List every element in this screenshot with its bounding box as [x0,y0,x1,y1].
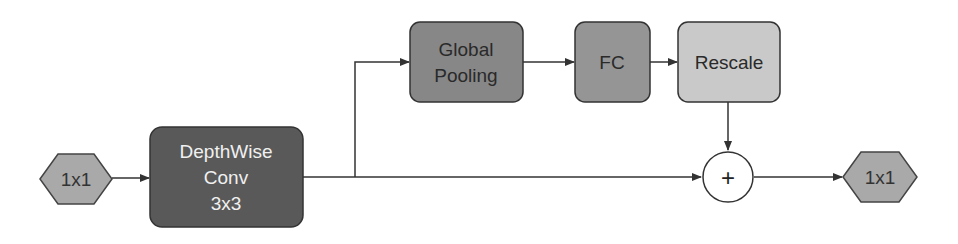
depthwise-conv-label-line3: 3x3 [211,193,242,214]
rescale-node: Rescale [678,22,780,102]
fc-label: FC [599,52,624,73]
add-node: + [703,152,753,202]
output-label: 1x1 [865,167,896,188]
diagram-canvas: 1x1 DepthWise Conv 3x3 Global Pooling FC… [0,0,958,244]
rescale-label: Rescale [695,52,764,73]
global-pooling-box [410,22,523,102]
global-pooling-label-line1: Global [439,39,494,60]
output-node: 1x1 [843,152,917,202]
global-pooling-label-line2: Pooling [434,65,497,86]
edge-depthwise-to-global-pooling [355,62,409,177]
plus-icon: + [721,164,735,191]
depthwise-conv-label-line1: DepthWise [180,141,273,162]
input-label: 1x1 [61,169,92,190]
fc-node: FC [575,22,650,102]
input-node: 1x1 [40,154,112,204]
global-pooling-node: Global Pooling [410,22,523,102]
depthwise-conv-label-line2: Conv [204,167,249,188]
depthwise-conv-node: DepthWise Conv 3x3 [150,127,303,227]
